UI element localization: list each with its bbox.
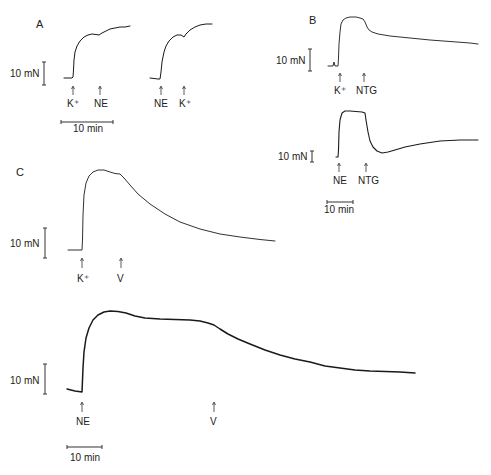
event-label-k: K⁺ bbox=[179, 98, 191, 109]
event-label-v: V bbox=[117, 273, 124, 284]
force-scale-label-a: 10 mN bbox=[10, 68, 39, 79]
panel-label-b: B bbox=[309, 14, 316, 26]
event-label-ntg: NTG bbox=[356, 85, 377, 96]
arrow-icon bbox=[72, 86, 186, 95]
event-label-v: V bbox=[210, 416, 217, 427]
event-label-ne: NE bbox=[154, 98, 168, 109]
arrow-icon bbox=[338, 163, 368, 172]
trace-c1 bbox=[68, 170, 275, 250]
figure-canvas: A 10 mN K⁺ NE NE K⁺ 10 min bbox=[0, 0, 491, 475]
force-scale-bar-c2 bbox=[43, 364, 47, 394]
panel-label-c: C bbox=[16, 166, 24, 178]
force-scale-bar-b1 bbox=[308, 49, 312, 71]
panel-label-a: A bbox=[36, 18, 44, 30]
trace-b1 bbox=[328, 17, 478, 66]
event-label-ne: NE bbox=[94, 98, 108, 109]
force-scale-label-b1: 10 mN bbox=[276, 55, 305, 66]
trace-c2 bbox=[67, 311, 415, 392]
event-label-ntg: NTG bbox=[358, 175, 379, 186]
force-scale-label-c1: 10 mN bbox=[10, 238, 39, 249]
arrow-icon bbox=[81, 258, 123, 268]
time-scale-label-a: 10 min bbox=[73, 123, 103, 134]
force-scale-label-b2: 10 mN bbox=[278, 151, 307, 162]
event-label-k: K⁺ bbox=[67, 98, 79, 109]
force-scale-bar-b2 bbox=[310, 151, 314, 162]
trace-b2 bbox=[336, 111, 478, 157]
event-label-k: K⁺ bbox=[334, 85, 346, 96]
trace-a2 bbox=[150, 24, 212, 79]
panel-a: A 10 mN K⁺ NE NE K⁺ 10 min bbox=[10, 18, 212, 134]
event-label-ne: NE bbox=[76, 416, 90, 427]
time-scale-label-c: 10 min bbox=[70, 452, 100, 463]
panel-c: C 10 mN K⁺ V 10 mN NE V bbox=[10, 166, 415, 463]
force-scale-bar-a bbox=[42, 62, 46, 85]
trace-a1 bbox=[64, 26, 130, 78]
arrow-icon bbox=[81, 402, 216, 412]
event-label-ne: NE bbox=[333, 175, 347, 186]
event-label-k: K⁺ bbox=[77, 273, 89, 284]
force-scale-label-c2: 10 mN bbox=[10, 375, 39, 386]
force-scale-bar-c1 bbox=[43, 228, 47, 258]
time-scale-bar-c bbox=[67, 445, 102, 449]
time-scale-label-b: 10 min bbox=[324, 204, 354, 215]
arrow-icon bbox=[339, 73, 366, 82]
panel-b: B 10 mN K⁺ NTG 10 mN NE NTG bbox=[276, 14, 478, 215]
